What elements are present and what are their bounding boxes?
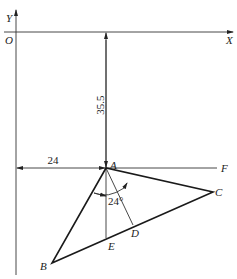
point-c-label: C bbox=[215, 186, 223, 198]
y-axis-label: Y bbox=[6, 12, 14, 24]
point-b-label: B bbox=[40, 260, 47, 272]
dimension-35-5: 35.5 bbox=[94, 95, 106, 115]
coordinate-axes bbox=[4, 10, 233, 275]
origin-label: O bbox=[5, 34, 13, 46]
triangle-abc bbox=[52, 168, 213, 263]
angle-24: 24° bbox=[108, 195, 123, 207]
point-d-label: D bbox=[130, 227, 139, 239]
point-a-label: A bbox=[109, 159, 117, 171]
x-axis-label: X bbox=[225, 34, 234, 46]
point-f-label: F bbox=[220, 162, 228, 174]
geometry-diagram: Y O X 35.5 24 24° A F C D E B bbox=[0, 0, 237, 279]
dimension-24: 24 bbox=[48, 154, 60, 166]
point-e-label: E bbox=[107, 240, 115, 252]
